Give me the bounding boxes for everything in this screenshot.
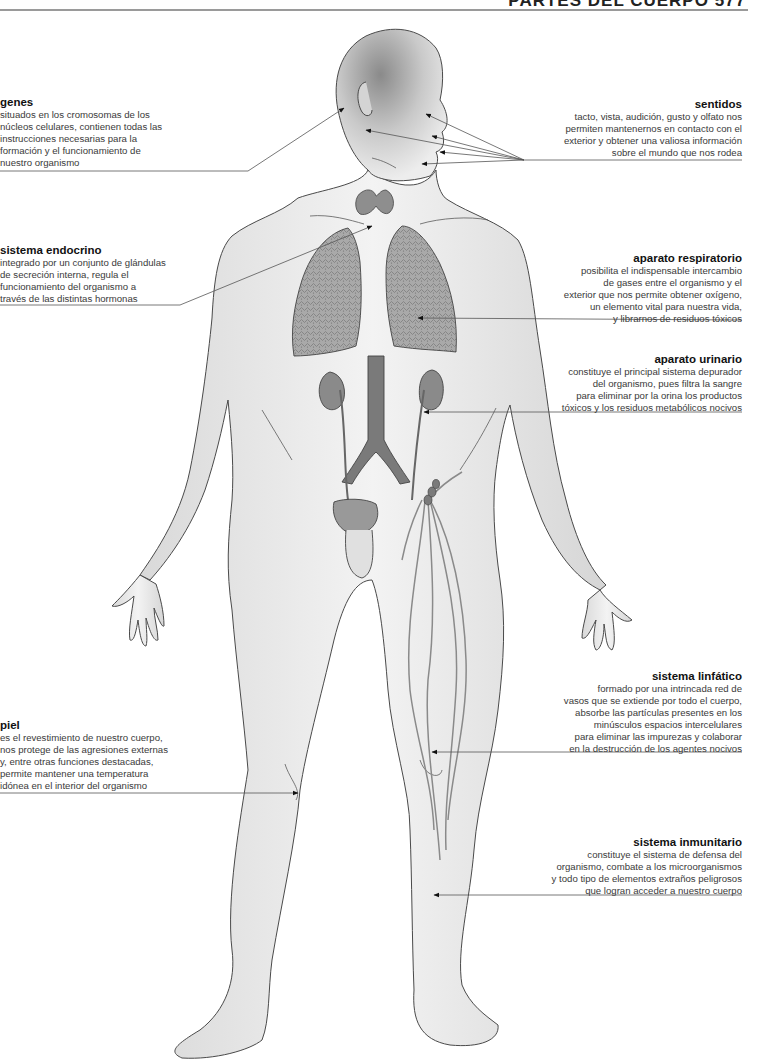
label-sentidos-body: tacto, vista, audición, gusto y olfato n…	[502, 111, 742, 159]
label-urinario-title: aparato urinario	[532, 353, 742, 366]
label-piel-body: es el revestimiento de nuestro cuerpo, n…	[0, 732, 200, 792]
label-sentidos-title: sentidos	[502, 98, 742, 111]
label-piel-title: piel	[0, 719, 200, 732]
label-urinario-body: constituye el principal sistema depurado…	[532, 366, 742, 414]
label-endocrino-title: sistema endocrino	[0, 244, 200, 257]
label-linfatico-body: formado por una intrincada red de vasos …	[532, 683, 742, 755]
label-sistema-endocrino: sistema endocrino integrado por un conju…	[0, 244, 200, 305]
label-sentidos: sentidos tacto, vista, audición, gusto y…	[502, 98, 742, 159]
label-aparato-urinario: aparato urinario constituye el principal…	[532, 353, 742, 414]
label-aparato-respiratorio: aparato respiratorio posibilita el indis…	[532, 252, 742, 325]
label-genes-title: genes	[0, 96, 250, 109]
label-inmunitario-body: constituye el sistema de defensa del org…	[512, 849, 742, 897]
label-respiratorio-body: posibilita el indispensable intercambio …	[532, 265, 742, 325]
label-sistema-inmunitario: sistema inmunitario constituye el sistem…	[512, 836, 742, 897]
label-piel: piel es el revestimiento de nuestro cuer…	[0, 719, 200, 792]
label-genes: genes situados en los cromosomas de los …	[0, 96, 250, 169]
label-linfatico-title: sistema linfático	[532, 670, 742, 683]
label-endocrino-body: integrado por un conjunto de glándulas d…	[0, 257, 200, 305]
label-respiratorio-title: aparato respiratorio	[532, 252, 742, 265]
label-sistema-linfatico: sistema linfático formado por una intrin…	[532, 670, 742, 755]
label-genes-body: situados en los cromosomas de los núcleo…	[0, 109, 250, 169]
label-inmunitario-title: sistema inmunitario	[512, 836, 742, 849]
